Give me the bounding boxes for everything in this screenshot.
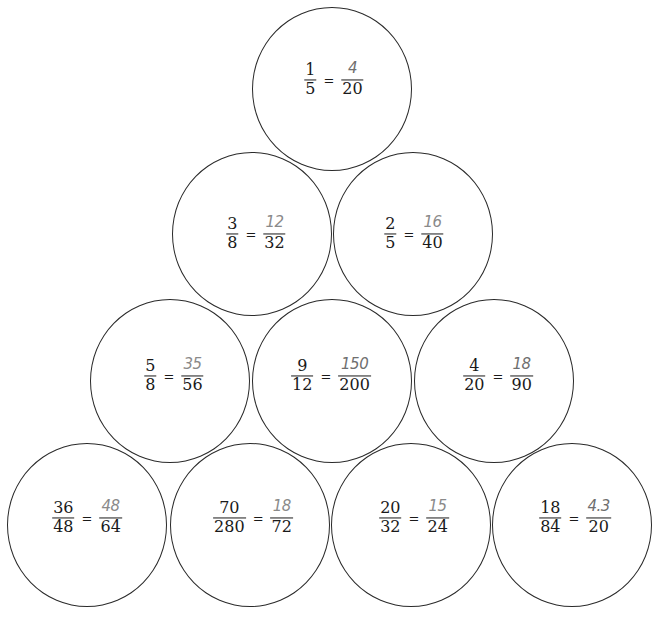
given-fraction: 3 8	[226, 216, 238, 251]
given-fraction: 4 20	[463, 358, 485, 393]
equivalent-fraction: 16 40	[421, 216, 443, 251]
numerator: 2	[384, 216, 396, 232]
numerator: 1	[304, 62, 316, 78]
equation-r3-c1: 5 8 = 35 56	[144, 358, 203, 393]
equals-sign: =	[82, 513, 93, 526]
equation-r4-c1: 36 48 = 48 64	[52, 500, 122, 535]
numerator: 3	[226, 216, 238, 232]
denominator: 90	[510, 378, 532, 394]
equivalent-fraction: 4.3 20	[586, 500, 610, 535]
equivalent-fraction: 15 24	[426, 500, 448, 535]
numerator: 18	[539, 500, 561, 516]
equivalent-fraction: 4 20	[341, 62, 363, 97]
denominator: 200	[338, 378, 371, 394]
equivalent-fraction: 35 56	[181, 358, 203, 393]
numerator: 20	[379, 500, 401, 516]
given-fraction: 18 84	[539, 500, 561, 535]
given-fraction: 20 32	[379, 500, 401, 535]
equals-sign: =	[409, 513, 420, 526]
given-fraction: 2 5	[384, 216, 396, 251]
equivalent-fraction: 12 32	[263, 216, 285, 251]
equation-r3-c2: 9 12 = 150 200	[291, 358, 371, 393]
handwritten-answer[interactable]: 18	[512, 356, 532, 372]
equals-sign: =	[163, 371, 174, 384]
denominator: 12	[291, 378, 313, 394]
denominator: 20	[341, 82, 363, 98]
equivalent-fraction: 150 200	[338, 358, 371, 393]
denominator: 56	[181, 378, 203, 394]
handwritten-answer[interactable]: 15	[428, 498, 448, 514]
numerator: 4	[468, 358, 480, 374]
handwritten-answer[interactable]: 48	[101, 498, 121, 514]
denominator: 32	[263, 236, 285, 252]
denominator: 48	[52, 520, 74, 536]
denominator: 5	[384, 236, 396, 252]
denominator: 40	[421, 236, 443, 252]
denominator: 32	[379, 520, 401, 536]
denominator: 8	[144, 378, 156, 394]
handwritten-answer[interactable]: 150	[340, 356, 369, 372]
handwritten-answer[interactable]: 35	[182, 356, 202, 372]
equation-r4-c3: 20 32 = 15 24	[379, 500, 449, 535]
given-fraction: 1 5	[304, 62, 316, 97]
equivalent-fraction: 48 64	[99, 500, 121, 535]
equation-r4-c4: 18 84 = 4.3 20	[539, 500, 611, 535]
given-fraction: 70 280	[213, 500, 246, 535]
equivalent-fraction: 18 72	[271, 500, 293, 535]
denominator: 20	[587, 520, 609, 536]
denominator: 84	[539, 520, 561, 536]
equation-r4-c2: 70 280 = 18 72	[213, 500, 293, 535]
denominator: 64	[99, 520, 121, 536]
handwritten-answer[interactable]: 4.3	[586, 498, 610, 514]
equals-sign: =	[569, 513, 580, 526]
handwritten-answer[interactable]: 4	[347, 60, 358, 76]
equation-r2-c1: 3 8 = 12 32	[226, 216, 285, 251]
equation-r3-c3: 4 20 = 18 90	[463, 358, 533, 393]
equals-sign: =	[245, 229, 256, 242]
numerator: 5	[144, 358, 156, 374]
equation-r2-c2: 2 5 = 16 40	[384, 216, 443, 251]
given-fraction: 36 48	[52, 500, 74, 535]
fraction-pyramid-worksheet: 1 5 = 4 20 3 8 = 12 32 2 5 =	[0, 0, 659, 635]
equivalent-fraction: 18 90	[510, 358, 532, 393]
numerator: 36	[52, 500, 74, 516]
denominator: 72	[271, 520, 293, 536]
denominator: 20	[463, 378, 485, 394]
equals-sign: =	[253, 513, 264, 526]
equals-sign: =	[403, 229, 414, 242]
denominator: 280	[213, 520, 246, 536]
denominator: 24	[426, 520, 448, 536]
given-fraction: 9 12	[291, 358, 313, 393]
numerator: 70	[218, 500, 240, 516]
handwritten-answer[interactable]: 16	[422, 214, 442, 230]
equals-sign: =	[323, 75, 334, 88]
equals-sign: =	[320, 371, 331, 384]
equals-sign: =	[493, 371, 504, 384]
handwritten-answer[interactable]: 18	[272, 498, 292, 514]
handwritten-answer[interactable]: 12	[264, 214, 284, 230]
given-fraction: 5 8	[144, 358, 156, 393]
equation-r1-c1: 1 5 = 4 20	[304, 62, 363, 97]
numerator: 9	[296, 358, 308, 374]
denominator: 8	[226, 236, 238, 252]
denominator: 5	[304, 82, 316, 98]
